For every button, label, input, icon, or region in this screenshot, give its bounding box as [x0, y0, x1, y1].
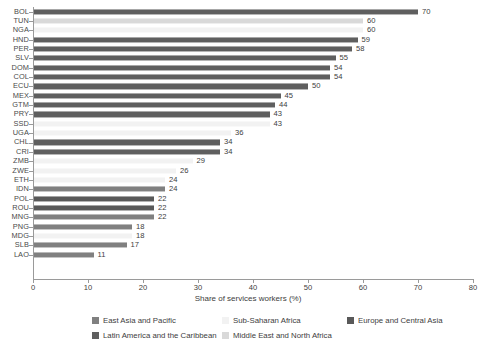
y-axis-tick	[29, 77, 33, 78]
bar-value-label: 54	[330, 64, 342, 72]
legend-item[interactable]: Sub-Saharan Africa	[222, 317, 301, 325]
legend-item[interactable]: East Asia and Pacific	[92, 317, 176, 325]
bar	[33, 65, 330, 70]
y-axis-tick	[29, 143, 33, 144]
bar	[33, 243, 127, 248]
y-tick-label: COL	[14, 73, 30, 80]
x-tick-label: 70	[414, 284, 422, 292]
plot-area: BOL70TUN60NGA60HND59PER58SLV55DOM54COL54…	[33, 7, 473, 279]
y-axis-tick	[29, 105, 33, 106]
y-tick-label: LAO	[14, 251, 29, 258]
legend-item[interactable]: Europe and Central Asia	[347, 317, 443, 325]
y-axis-tick	[29, 255, 33, 256]
bar-row: SLB17	[33, 241, 473, 250]
y-axis-tick	[29, 12, 33, 13]
bar	[33, 187, 165, 192]
legend-item[interactable]: Middle East and North Africa	[222, 332, 332, 340]
y-axis-tick	[29, 58, 33, 59]
y-tick-label: BOL	[14, 8, 29, 15]
x-tick-label: 40	[249, 284, 257, 292]
services-workers-bar-chart: BOL70TUN60NGA60HND59PER58SLV55DOM54COL54…	[0, 0, 496, 349]
bar-value-label: 60	[363, 17, 375, 25]
y-tick-label: PRY	[14, 111, 29, 118]
bar-row: ETH24	[33, 175, 473, 184]
y-tick-label: NGA	[13, 27, 29, 34]
y-axis-tick	[29, 114, 33, 115]
bar	[33, 84, 308, 89]
y-tick-label: PNG	[13, 223, 29, 230]
bar-row: PNG18	[33, 222, 473, 231]
y-axis-tick	[29, 133, 33, 134]
bar-value-label: 70	[418, 8, 430, 16]
y-axis-tick	[29, 171, 33, 172]
bar-row: HND59	[33, 35, 473, 44]
bar	[33, 131, 231, 136]
y-axis-tick	[29, 236, 33, 237]
legend-label: Latin America and the Caribbean	[103, 332, 217, 340]
y-tick-label: HND	[13, 36, 29, 43]
bar-value-label: 44	[275, 101, 287, 109]
bar-value-label: 34	[220, 139, 232, 147]
x-tick-label: 10	[84, 284, 92, 292]
legend-row-2: Latin America and the CaribbeanMiddle Ea…	[0, 328, 496, 343]
y-axis-tick	[29, 245, 33, 246]
bar-row: UGA36	[33, 128, 473, 137]
y-axis-tick	[29, 49, 33, 50]
bar-value-label: 24	[165, 176, 177, 184]
legend-label: Europe and Central Asia	[358, 317, 443, 325]
bar	[33, 9, 418, 14]
bar-row: ECU50	[33, 82, 473, 91]
y-axis-tick	[29, 152, 33, 153]
y-tick-label: ZWE	[12, 167, 29, 174]
bar-value-label: 22	[154, 204, 166, 212]
bar	[33, 149, 220, 154]
legend-label: Sub-Saharan Africa	[233, 317, 301, 325]
bar	[33, 233, 132, 238]
y-tick-label: ROU	[12, 204, 29, 211]
bar-row: CRI34	[33, 147, 473, 156]
x-axis-title: Share of services workers (%)	[0, 294, 496, 303]
bar	[33, 121, 270, 126]
bar-value-label: 29	[193, 157, 205, 165]
bar-row: ZMB29	[33, 157, 473, 166]
y-tick-label: DOM	[11, 64, 29, 71]
bar	[33, 93, 281, 98]
bar-value-label: 45	[281, 92, 293, 100]
x-tick-label: 30	[194, 284, 202, 292]
y-axis-tick	[29, 208, 33, 209]
y-axis-tick	[29, 96, 33, 97]
bar-value-label: 34	[220, 148, 232, 156]
bar-value-label: 18	[132, 223, 144, 231]
x-tick-label: 0	[31, 284, 35, 292]
bar-value-label: 50	[308, 83, 320, 91]
bar	[33, 75, 330, 80]
bar-row: MEX45	[33, 91, 473, 100]
y-tick-label: GTM	[12, 101, 29, 108]
bar	[33, 103, 275, 108]
y-axis-tick	[29, 217, 33, 218]
bar	[33, 205, 154, 210]
bar-row: PRY43	[33, 110, 473, 119]
legend-color-swatch	[347, 317, 354, 324]
bar-row: DOM54	[33, 63, 473, 72]
bar-value-label: 59	[358, 36, 370, 44]
legend-color-swatch	[222, 332, 229, 339]
bar	[33, 56, 336, 61]
bar	[33, 177, 165, 182]
legend-row-1: East Asia and PacificSub-Saharan AfricaE…	[0, 313, 496, 328]
y-tick-label: MNG	[11, 214, 29, 221]
y-axis-tick	[29, 199, 33, 200]
bar	[33, 215, 154, 220]
y-tick-label: CRI	[16, 148, 29, 155]
bar-row: COL54	[33, 72, 473, 81]
y-tick-label: MDG	[11, 232, 29, 239]
y-axis-tick	[29, 68, 33, 69]
bar-value-label: 22	[154, 195, 166, 203]
bar-value-label: 17	[127, 241, 139, 249]
legend-item[interactable]: Latin America and the Caribbean	[92, 332, 217, 340]
bar	[33, 18, 363, 23]
bar-row: SLV55	[33, 54, 473, 63]
bar-value-label: 18	[132, 232, 144, 240]
y-tick-label: ECU	[13, 83, 29, 90]
x-tick-label: 20	[139, 284, 147, 292]
